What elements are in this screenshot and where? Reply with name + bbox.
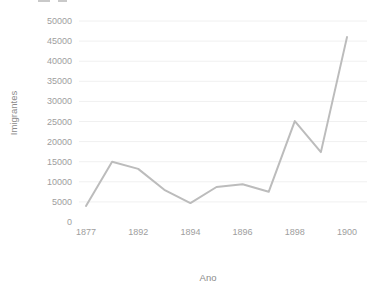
y-tick-label: 45000	[47, 36, 72, 46]
x-tick-label: 1900	[337, 227, 357, 237]
chart-canvas: 0500010000150002000025000300003500040000…	[0, 0, 371, 286]
y-tick-label: 20000	[47, 137, 72, 147]
y-axis-title: Imigrantes	[8, 91, 19, 135]
y-tick-label: 0	[67, 217, 72, 227]
y-tick-label: 10000	[47, 177, 72, 187]
y-tick-label: 35000	[47, 76, 72, 86]
x-tick-label: 1898	[285, 227, 305, 237]
y-tick-label: 15000	[47, 157, 72, 167]
x-axis-title: Ano	[200, 272, 217, 283]
x-tick-label: 1894	[180, 227, 200, 237]
x-tick-label: 1892	[128, 227, 148, 237]
y-tick-label: 50000	[47, 16, 72, 26]
y-tick-label: 40000	[47, 56, 72, 66]
y-tick-label: 30000	[47, 96, 72, 106]
x-tick-label: 1896	[233, 227, 253, 237]
line-chart: 0500010000150002000025000300003500040000…	[0, 0, 371, 286]
y-tick-label: 25000	[47, 117, 72, 127]
y-tick-label: 5000	[52, 197, 72, 207]
x-tick-label: 1877	[76, 227, 96, 237]
